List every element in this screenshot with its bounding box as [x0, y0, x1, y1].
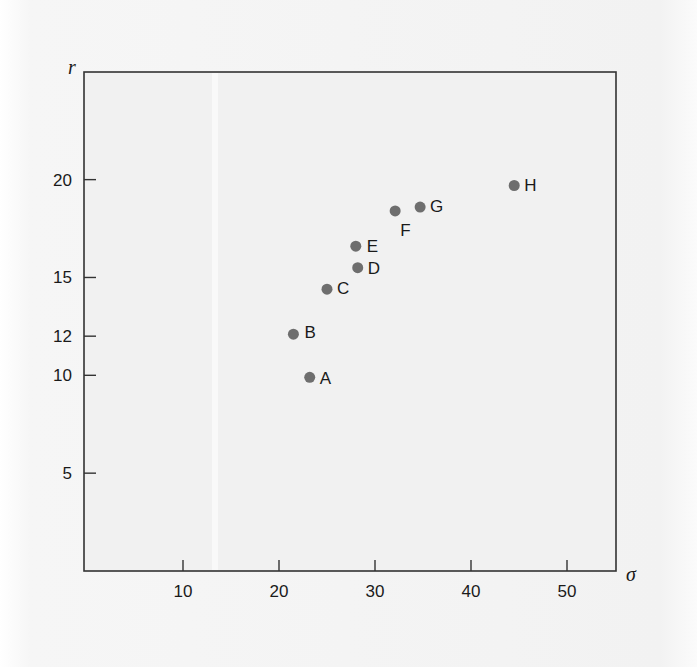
x-tick-label: 50	[558, 582, 577, 601]
point-marker	[415, 202, 426, 213]
point-label: G	[430, 197, 443, 216]
point-marker	[509, 180, 520, 191]
y-tick-label: 12	[53, 327, 72, 346]
scatter-chart: 1020304050 510121520 ABCDEFGH σ r	[0, 0, 697, 667]
point-marker	[322, 284, 333, 295]
figure-page: 1020304050 510121520 ABCDEFGH σ r	[0, 0, 697, 667]
point-marker	[350, 241, 361, 252]
x-tick-label: 20	[270, 582, 289, 601]
x-tick-label: 40	[462, 582, 481, 601]
y-tick-label: 20	[53, 171, 72, 190]
x-tick-label: 30	[366, 582, 385, 601]
point-label: D	[368, 259, 380, 278]
point-marker	[304, 372, 315, 383]
y-tick-label: 5	[63, 464, 72, 483]
point-label: C	[337, 279, 349, 298]
point-marker	[352, 262, 363, 273]
y-tick-label: 15	[53, 268, 72, 287]
point-marker	[390, 205, 401, 216]
point-label: H	[524, 176, 536, 195]
y-tick-label: 10	[53, 366, 72, 385]
plot-area	[84, 72, 616, 571]
scan-streak	[212, 73, 218, 570]
point-marker	[288, 329, 299, 340]
x-tick-label: 10	[174, 582, 193, 601]
point-label: B	[304, 323, 315, 342]
point-label: A	[320, 369, 332, 388]
x-axis-title: σ	[626, 563, 637, 585]
y-axis-title: r	[68, 56, 76, 78]
plot-frame	[84, 72, 616, 571]
point-label: E	[367, 237, 378, 256]
point-label: F	[400, 221, 410, 240]
